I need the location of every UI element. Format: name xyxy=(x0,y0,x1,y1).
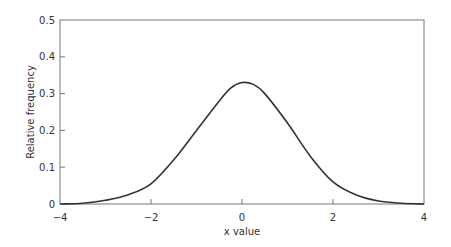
y-tick-label: 0.2 xyxy=(39,125,55,136)
chart: 00.10.20.30.40.5−4−2024 x value Relative… xyxy=(0,0,451,247)
y-tick-label: 0.4 xyxy=(39,51,55,62)
x-tick-label: −2 xyxy=(144,212,159,223)
y-tick-label: 0.1 xyxy=(39,162,55,173)
y-tick-label: 0.5 xyxy=(39,15,55,26)
y-axis-title: Relative frequency xyxy=(25,65,36,159)
ticks: 00.10.20.30.40.5−4−2024 xyxy=(39,15,427,224)
y-tick-label: 0.3 xyxy=(39,88,55,99)
x-tick-label: 2 xyxy=(330,212,336,223)
plot-frame xyxy=(60,20,424,204)
distribution-curve xyxy=(60,82,424,204)
x-tick-label: 4 xyxy=(421,212,427,223)
y-tick-label: 0 xyxy=(49,199,55,210)
x-axis-title: x value xyxy=(224,226,260,237)
x-tick-label: 0 xyxy=(239,212,245,223)
axes xyxy=(60,20,424,204)
series xyxy=(60,82,424,204)
x-tick-label: −4 xyxy=(53,212,68,223)
